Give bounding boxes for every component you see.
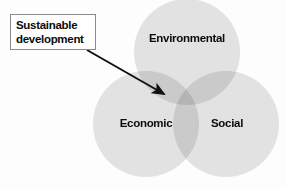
callout-label: Sustainable development (16, 19, 90, 46)
sustainability-venn-diagram: Sustainable development Environmental Ec… (0, 0, 286, 189)
circle-label-economic: Economic (96, 118, 196, 130)
circle-label-social: Social (192, 118, 262, 130)
venn-circles-group (93, 0, 279, 177)
circle-label-environmental: Environmental (134, 33, 240, 45)
callout-box: Sustainable development (10, 14, 96, 50)
